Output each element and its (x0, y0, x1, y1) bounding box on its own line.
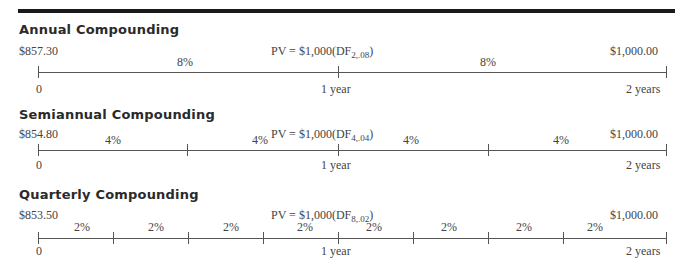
rate-label: 8% (480, 55, 496, 70)
timeline-tick (38, 144, 39, 156)
rate-label: 4% (403, 133, 419, 148)
rate-label: 4% (553, 133, 569, 148)
timeline-tick (488, 232, 489, 244)
start-label: 0 (36, 158, 42, 173)
timeline-tick (187, 144, 188, 156)
section-heading: Semiannual Compounding (19, 107, 215, 122)
rate-label: 2% (366, 220, 382, 235)
timeline-tick (338, 66, 339, 78)
formula-subscript: 2,.08 (351, 50, 369, 60)
formula: PV = $1,000(DF2,.08) (271, 44, 373, 60)
end-label: 2 years (626, 82, 660, 97)
start-label: 0 (36, 244, 42, 259)
timeline-axis (38, 238, 667, 239)
timeline-tick (666, 66, 667, 78)
semiannual-compounding-section: Semiannual Compounding $854.80 PV = $1,0… (0, 107, 675, 187)
end-label: 2 years (626, 158, 660, 173)
present-value: $853.50 (19, 208, 58, 223)
quarterly-compounding-section: Quarterly Compounding $853.50 PV = $1,00… (0, 187, 675, 266)
formula-text: PV = $1,000(DF (271, 127, 351, 141)
top-rule (18, 9, 675, 13)
timeline-tick (38, 66, 39, 78)
rate-label: 2% (148, 220, 164, 235)
timeline-tick (263, 232, 264, 244)
rate-label: 2% (74, 220, 90, 235)
annual-compounding-section: Annual Compounding $857.30 PV = $1,000(D… (0, 22, 675, 102)
timeline-axis (38, 72, 667, 73)
mid-label: 1 year (321, 158, 351, 173)
formula-close: ) (369, 44, 373, 58)
timeline-tick (38, 232, 39, 244)
timeline-tick (338, 232, 339, 244)
rate-label: 4% (105, 133, 121, 148)
rate-label: 4% (252, 133, 268, 148)
section-heading: Annual Compounding (19, 22, 179, 37)
start-label: 0 (36, 82, 42, 97)
present-value: $854.80 (19, 127, 58, 142)
formula: PV = $1,000(DF8,.02) (271, 208, 373, 224)
timeline-tick (488, 144, 489, 156)
formula-text: PV = $1,000(DF (271, 44, 351, 58)
timeline-tick (188, 232, 189, 244)
timeline-tick (563, 232, 564, 244)
end-label: 2 years (626, 244, 660, 259)
timeline-tick (666, 144, 667, 156)
rate-label: 2% (441, 220, 457, 235)
future-value: $1,000.00 (610, 44, 658, 59)
timeline-tick (338, 144, 339, 156)
section-heading: Quarterly Compounding (19, 187, 199, 202)
timeline-tick (113, 232, 114, 244)
rate-label: 2% (516, 220, 532, 235)
timeline-axis (38, 150, 667, 151)
mid-label: 1 year (321, 82, 351, 97)
formula-subscript: 4,.04 (351, 133, 369, 143)
rate-label: 2% (297, 220, 313, 235)
future-value: $1,000.00 (610, 127, 658, 142)
formula-close: ) (369, 127, 373, 141)
rate-label: 2% (587, 220, 603, 235)
rate-label: 8% (177, 55, 193, 70)
timeline-tick (413, 232, 414, 244)
mid-label: 1 year (321, 244, 351, 259)
present-value: $857.30 (19, 44, 58, 59)
future-value: $1,000.00 (610, 208, 658, 223)
formula: PV = $1,000(DF4,.04) (271, 127, 373, 143)
rate-label: 2% (223, 220, 239, 235)
timeline-tick (666, 232, 667, 244)
